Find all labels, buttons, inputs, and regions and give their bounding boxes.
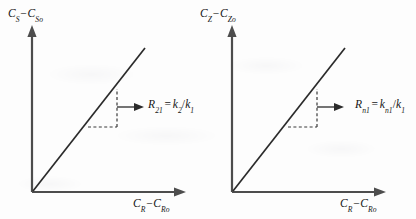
slope-annotation-label: Rn1=kn1/k1 xyxy=(355,99,405,111)
x-axis-label: CR−CRo xyxy=(133,198,170,210)
data-series-slope-line xyxy=(233,48,345,191)
figure-root: CS−CSo CR−CRo R21=k2/k1 CZ−CZo CR−CRo xyxy=(0,0,416,219)
x-axis-arrowhead xyxy=(174,187,186,196)
y-axis-label: CZ−CZo xyxy=(200,8,236,20)
x-axis-label: CR−CRo xyxy=(340,198,377,210)
slope-annotation-label: R21=k2/k1 xyxy=(148,99,194,111)
annotation-pointer-arrowhead xyxy=(134,103,144,111)
x-axis-arrowhead xyxy=(374,187,386,196)
y-axis-arrowhead xyxy=(27,25,36,37)
y-axis-label: CS−CSo xyxy=(8,8,43,20)
chart-panel-left: CS−CSo CR−CRo R21=k2/k1 xyxy=(0,0,208,219)
annotation-pointer-arrowhead xyxy=(334,103,344,111)
chart-panel-right: CZ−CZo CR−CRo Rn1=kn1/k1 xyxy=(208,0,416,219)
data-series-slope-line xyxy=(33,48,145,191)
y-axis-arrowhead xyxy=(227,25,236,37)
